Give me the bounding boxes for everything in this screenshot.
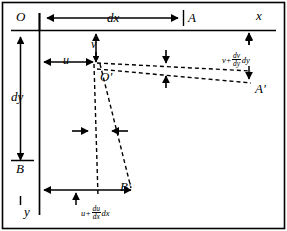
label-axis-y: y — [24, 205, 30, 218]
expr-v-fraction: dvdy — [232, 52, 241, 69]
expr-u-plus: + — [85, 208, 91, 218]
expr-u-fraction: dudx — [92, 205, 102, 222]
label-velocity-u: u — [63, 54, 69, 66]
label-dim-dy: dy — [11, 90, 23, 103]
fluid-element-deformation-figure: O A x dx dy B y v u O' A' B' v+dvdydy u+… — [0, 0, 287, 231]
expr-v-numerator: dv — [232, 52, 241, 60]
diagram-canvas — [0, 0, 287, 231]
label-point-a: A — [188, 11, 196, 24]
expression-u-gradient: u+dudxdx — [81, 203, 110, 221]
expression-v-gradient: v+dvdydy — [222, 50, 250, 68]
label-origin: O — [16, 10, 25, 23]
expr-u-numerator: du — [92, 205, 102, 213]
deformed-edge-o-prime-a-prime-lower — [97, 69, 251, 83]
expr-v-trailing: dy — [242, 55, 250, 65]
label-point-o-prime: O' — [100, 70, 112, 83]
expr-v-denominator: dy — [232, 59, 241, 68]
figure-border — [3, 3, 285, 229]
label-point-a-prime: A' — [255, 82, 266, 95]
expr-u-denominator: dx — [92, 212, 102, 221]
label-axis-x: x — [256, 9, 262, 22]
label-point-b: B — [16, 162, 24, 175]
label-point-b-prime: B' — [120, 180, 131, 193]
deformed-edge-o-prime-b-prime-left — [94, 64, 98, 196]
expr-v-plus: + — [226, 55, 232, 65]
expr-u-trailing: dx — [102, 208, 110, 218]
label-dim-dx: dx — [107, 11, 119, 24]
label-velocity-v: v — [91, 38, 96, 50]
